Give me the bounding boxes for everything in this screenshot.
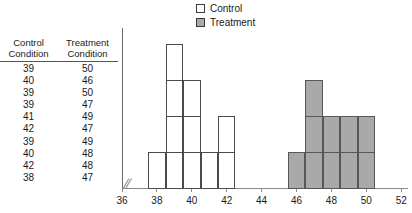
histogram-bar: [201, 151, 218, 188]
table-row: 4046: [0, 75, 118, 87]
histogram-bar: [288, 151, 305, 188]
table-row: 4248: [0, 160, 118, 172]
histogram-bar-cell: [288, 152, 305, 189]
white-square-swatch-icon: [196, 4, 205, 13]
histogram-bar-cell: [218, 116, 235, 153]
table-cell: 40: [0, 75, 57, 87]
chart-legend: Control Treatment: [196, 2, 255, 28]
x-axis-tick-label: 48: [320, 195, 342, 207]
histogram-bar-cell: [201, 152, 218, 189]
table-row: 3847: [0, 172, 118, 184]
histogram-bar-cell: [218, 152, 235, 189]
table-cell: 47: [57, 172, 118, 184]
column-header-line2: Condition: [1, 48, 56, 59]
table-cell: 39: [0, 87, 57, 99]
histogram-bar: [166, 40, 183, 188]
histogram-bar-cell: [323, 116, 340, 153]
x-axis-tick-label: 52: [390, 195, 412, 207]
legend-item-label: Treatment: [210, 17, 255, 28]
x-axis-tick-label: 38: [146, 195, 168, 207]
table-row: 4048: [0, 148, 118, 160]
table-cell: 48: [57, 148, 118, 160]
table-body: 3950404639503947414942473949404842483847: [0, 63, 118, 184]
x-axis-tick-label: 42: [216, 195, 238, 207]
histogram-bar-cell: [148, 152, 165, 189]
x-axis-tick: [261, 188, 262, 192]
table-header-row: Control Condition Treatment Condition: [0, 37, 118, 62]
histogram-bar: [148, 151, 165, 188]
raw-data-table: Control Condition Treatment Condition 39…: [0, 37, 118, 184]
table-cell: 49: [57, 136, 118, 148]
table-cell: 50: [57, 87, 118, 99]
histogram-bar-cell: [183, 116, 200, 153]
table-cell: 47: [57, 99, 118, 111]
histogram-bar-cell: [305, 152, 322, 189]
histogram-bar-cell: [183, 152, 200, 189]
column-header-line1: Treatment: [58, 37, 117, 48]
table-row: 3950: [0, 87, 118, 99]
histogram-bar: [340, 114, 357, 188]
table-cell: 39: [0, 63, 57, 75]
column-header-line1: Control: [1, 37, 56, 48]
column-header-line2: Condition: [58, 48, 117, 59]
legend-item-control: Control: [196, 2, 255, 14]
table-cell: 49: [57, 111, 118, 123]
table: Control Condition Treatment Condition 39…: [0, 37, 118, 184]
table-cell: 47: [57, 123, 118, 135]
histogram-bar-cell: [305, 80, 322, 117]
table-head: Control Condition Treatment Condition: [0, 37, 118, 63]
table-cell: 42: [0, 123, 57, 135]
histogram-bar-cell: [183, 80, 200, 117]
x-axis-tick-label: 40: [181, 195, 203, 207]
table-cell: 39: [0, 136, 57, 148]
histogram-bar-cell: [166, 116, 183, 153]
histogram-bar-cell: [166, 152, 183, 189]
x-axis-tick-label: 36: [111, 195, 133, 207]
x-axis-tick-label: 44: [251, 195, 273, 207]
histogram-bar-cell: [358, 152, 375, 189]
histogram-bar-cell: [166, 80, 183, 117]
table-row: 3949: [0, 136, 118, 148]
column-header-control: Control Condition: [0, 37, 57, 62]
x-axis-tick: [122, 188, 123, 192]
x-axis-tick: [401, 188, 402, 192]
histogram-bar: [183, 77, 200, 188]
legend-item-label: Control: [210, 3, 242, 14]
histogram-bar: [305, 77, 322, 188]
histogram-bar: [218, 114, 235, 188]
x-axis-tick-label: 46: [286, 195, 308, 207]
histogram-bar-cell: [358, 116, 375, 153]
table-cell: 46: [57, 75, 118, 87]
histogram-bar-cell: [305, 116, 322, 153]
table-row: 3950: [0, 63, 118, 75]
table-cell: 42: [0, 160, 57, 172]
histogram-bar-cell: [323, 152, 340, 189]
table-row: 4247: [0, 123, 118, 135]
histogram-bar-cell: [340, 152, 357, 189]
histogram-bar-cell: [340, 116, 357, 153]
y-axis-line: [122, 28, 123, 188]
histogram-bar-cell: [166, 44, 183, 81]
table-cell: 48: [57, 160, 118, 172]
table-cell: 39: [0, 99, 57, 111]
table-cell: 40: [0, 148, 57, 160]
histogram-bar: [323, 114, 340, 188]
histogram-bar: [358, 114, 375, 188]
x-axis-tick-label: 50: [355, 195, 377, 207]
table-cell: 41: [0, 111, 57, 123]
table-cell: 50: [57, 63, 118, 75]
table-cell: 38: [0, 172, 57, 184]
gray-square-swatch-icon: [196, 18, 205, 27]
legend-item-treatment: Treatment: [196, 16, 255, 28]
table-row: 4149: [0, 111, 118, 123]
table-row: 3947: [0, 99, 118, 111]
column-header-treatment: Treatment Condition: [57, 37, 118, 62]
